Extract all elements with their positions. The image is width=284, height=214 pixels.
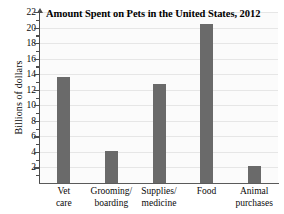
y-axis-tick-labels: 246810121416182022 [16,8,36,184]
y-axis-tick-mark [34,90,40,91]
category-label-line2: care [56,197,72,209]
x-axis-category-label: Vetcare [56,185,72,209]
y-axis-tick-label: 16 [16,54,36,63]
category-label-line2: boarding [91,197,133,209]
y-axis-minor-tick-mark [36,82,40,83]
y-axis-tick-label: 2 [16,163,36,172]
gridline [40,59,278,60]
gridline [40,74,278,75]
category-label-line1: Vet [57,186,70,196]
bar-chart-figure: Billions of dollars 246810121416182022 A… [0,0,284,214]
y-axis-minor-tick-mark [36,160,40,161]
y-axis-tick-label: 22 [16,8,36,17]
y-axis-tick-mark [34,12,40,13]
bar [57,77,70,183]
y-axis-tick-mark [34,43,40,44]
y-axis-minor-tick-mark [36,35,40,36]
gridline [40,28,278,29]
category-label-line1: Grooming/ [91,186,133,196]
y-axis-tick-mark [34,121,40,122]
y-axis-minor-tick-mark [36,51,40,52]
x-axis-baseline [39,183,279,184]
bar [248,166,261,183]
category-label-line1: Animal [240,186,269,196]
bar [153,84,166,183]
y-axis-tick-mark [34,105,40,106]
x-axis-category-label: Animalpurchases [235,185,272,209]
category-label-line1: Food [197,186,217,196]
y-axis-tick-mark [34,28,40,29]
y-axis-minor-tick-mark [36,20,40,21]
plot-area [40,12,278,183]
y-axis-tick-label: 18 [16,39,36,48]
chart-title: Amount Spent on Pets in the United State… [46,8,260,19]
y-axis-tick-label: 12 [16,85,36,94]
y-axis-tick-mark [34,167,40,168]
bar [105,151,118,183]
y-axis-tick-mark [34,59,40,60]
y-axis-tick-label: 20 [16,23,36,32]
x-axis-category-label: Grooming/boarding [91,185,133,209]
x-axis-category-label: Food [197,185,217,197]
y-axis-tick-mark [34,136,40,137]
category-label-line2: purchases [235,197,272,209]
bar [200,24,213,183]
gridline [40,43,278,44]
x-axis-category-labels: VetcareGrooming/boardingSupplies/medicin… [40,185,280,214]
y-axis-minor-tick-mark [36,98,40,99]
y-axis-tick-mark [34,74,40,75]
category-label-line2: medicine [141,197,176,209]
y-axis-minor-tick-mark [36,129,40,130]
y-axis-tick-label: 14 [16,70,36,79]
y-axis-tick-mark [34,152,40,153]
y-axis-tick-label: 6 [16,132,36,141]
y-axis-minor-tick-mark [36,113,40,114]
y-axis-minor-tick-mark [36,66,40,67]
y-axis-tick-label: 8 [16,116,36,125]
y-axis-minor-tick-mark [36,144,40,145]
x-axis-category-label: Supplies/medicine [141,185,176,209]
y-axis-minor-tick-mark [36,175,40,176]
y-axis-tick-label: 4 [16,147,36,156]
y-axis-tick-label: 10 [16,101,36,110]
category-label-line1: Supplies/ [141,186,176,196]
